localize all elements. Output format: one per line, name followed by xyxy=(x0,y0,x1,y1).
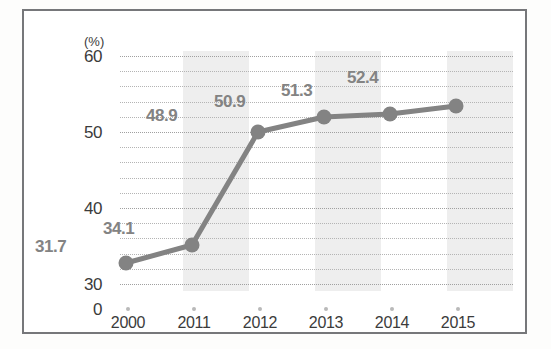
x-axis-label-2000: 2000 xyxy=(98,314,158,332)
background-band-1 xyxy=(183,51,249,291)
data-label-2000: 31.7 xyxy=(35,237,66,257)
data-label-2012: 48.9 xyxy=(146,106,177,126)
gridline-36 xyxy=(120,238,513,239)
gridline-52 xyxy=(120,117,513,118)
x-axis-tick-2011 xyxy=(192,307,196,311)
data-label-2013: 50.9 xyxy=(214,92,245,112)
gridline-32 xyxy=(120,269,513,270)
gridline-34 xyxy=(120,254,513,255)
y-axis-tick-label-60: 60 xyxy=(62,47,102,67)
y-axis-tick-label-0: 0 xyxy=(62,300,102,320)
gridline-46 xyxy=(120,162,513,163)
x-axis-tick-2012 xyxy=(258,307,262,311)
y-axis-tick-label-50: 50 xyxy=(62,123,102,143)
y-axis-tick-label-30: 30 xyxy=(62,275,102,295)
gridline-50 xyxy=(120,132,513,133)
x-axis-label-2012: 2012 xyxy=(230,314,290,332)
plot-area xyxy=(120,51,513,291)
data-label-2015: 52.4 xyxy=(347,68,378,88)
chart-page: (%) 60 50 40 30 0 xyxy=(0,0,551,349)
gridline-30 xyxy=(120,284,513,285)
gridline-58 xyxy=(120,71,513,72)
gridline-54 xyxy=(120,102,513,103)
x-axis-tick-2015 xyxy=(456,307,460,311)
x-axis-tick-2013 xyxy=(324,307,328,311)
x-axis-label-2013: 2013 xyxy=(296,314,356,332)
gridline-60 xyxy=(120,56,513,57)
y-axis-tick-label-40: 40 xyxy=(62,199,102,219)
x-axis-label-2015: 2015 xyxy=(428,314,488,332)
chart-frame: (%) 60 50 40 30 0 xyxy=(22,9,527,334)
x-axis-label-2014: 2014 xyxy=(362,314,422,332)
gridline-56 xyxy=(120,86,513,87)
gridline-48 xyxy=(120,147,513,148)
gridline-44 xyxy=(120,178,513,179)
gridline-40 xyxy=(120,208,513,209)
x-axis-tick-2000 xyxy=(126,307,130,311)
gridline-38 xyxy=(120,223,513,224)
data-label-2011: 34.1 xyxy=(103,219,134,239)
background-band-3 xyxy=(447,51,513,291)
x-axis-label-2011: 2011 xyxy=(164,314,224,332)
x-axis-tick-2014 xyxy=(390,307,394,311)
data-label-2014: 51.3 xyxy=(281,81,312,101)
gridline-42 xyxy=(120,193,513,194)
